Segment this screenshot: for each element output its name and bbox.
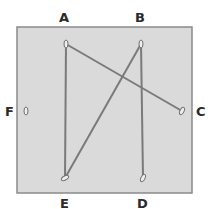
- label-c: C: [196, 105, 206, 118]
- connection-diagram: [0, 0, 211, 209]
- label-e: E: [60, 197, 69, 209]
- label-f: F: [5, 105, 14, 118]
- point-marker-a: [64, 40, 68, 48]
- point-marker-f: [24, 107, 28, 115]
- line-a-e: [65, 44, 66, 178]
- point-marker-b: [139, 40, 143, 48]
- label-b: B: [135, 11, 145, 24]
- label-d: D: [137, 197, 148, 209]
- label-a: A: [59, 11, 69, 24]
